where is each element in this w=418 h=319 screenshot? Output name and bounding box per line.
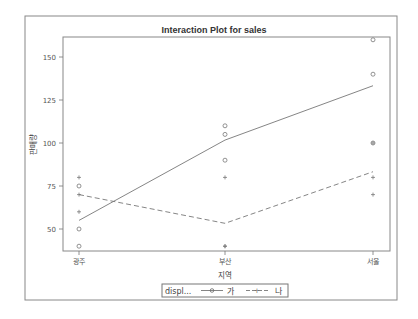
y-tick-label: 100 (43, 140, 56, 148)
y-tick-label: 125 (43, 97, 56, 105)
x-tick-label: 부산 (219, 257, 232, 266)
mean-line-1 (79, 172, 373, 224)
x-tick-label: 광주 (73, 258, 86, 266)
legend-label-na: 나 (275, 287, 283, 296)
legend-title: displ... (165, 287, 191, 296)
plot-area (63, 37, 390, 251)
data-point-circle (223, 132, 227, 136)
y-tick-label: 150 (43, 54, 56, 62)
data-point-circle (223, 124, 227, 128)
legend-label-ga: 가 (227, 287, 235, 296)
data-point-circle (77, 244, 81, 248)
series-layer (77, 38, 375, 248)
y-tick-label: 75 (47, 183, 56, 191)
svg-text:+: + (254, 287, 260, 295)
x-axis: 광주부산서울 (73, 251, 380, 266)
interaction-plot: Interaction Plot for sales 5075100125150… (0, 0, 418, 319)
y-tick-label: 50 (47, 226, 56, 234)
data-point-circle (223, 158, 227, 162)
data-point-circle (371, 38, 375, 42)
x-tick-label: 서울 (367, 257, 380, 266)
data-point-circle (77, 184, 81, 188)
y-axis-label: 판매량 (29, 134, 38, 155)
x-axis-label: 지역 (218, 270, 232, 280)
y-axis: 5075100125150 (43, 54, 63, 234)
data-point-circle (77, 227, 81, 231)
chart-title: Interaction Plot for sales (161, 25, 266, 35)
mean-line-0 (79, 86, 373, 221)
legend: displ... 가 + 나 (162, 284, 288, 297)
data-point-circle (371, 72, 375, 76)
